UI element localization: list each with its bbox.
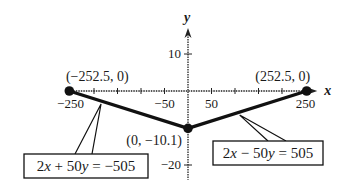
point-label: (0, −10.1) bbox=[126, 133, 182, 149]
x-tick-label: −50 bbox=[154, 96, 174, 111]
callout-pointer bbox=[75, 104, 101, 154]
chart: xy−250−505025010−20(−252.5, 0)(252.5, 0)… bbox=[0, 0, 362, 189]
data-point bbox=[302, 86, 312, 96]
data-point bbox=[65, 86, 75, 96]
y-tick-label: −20 bbox=[161, 157, 181, 172]
y-tick-label: 10 bbox=[168, 46, 181, 61]
x-tick-label: 50 bbox=[205, 96, 218, 111]
x-tick-label: 250 bbox=[296, 96, 316, 111]
equation-label: 2x − 50y = 505 bbox=[223, 145, 313, 161]
point-label: (−252.5, 0) bbox=[66, 69, 129, 85]
callout-pointer bbox=[240, 115, 286, 141]
x-tick-label: −250 bbox=[57, 96, 84, 111]
x-axis-label: x bbox=[323, 83, 331, 98]
data-point bbox=[183, 124, 193, 134]
point-label: (252.5, 0) bbox=[255, 69, 310, 85]
y-axis-label: y bbox=[182, 10, 191, 25]
equation-label: 2x + 50y = −505 bbox=[37, 158, 136, 174]
